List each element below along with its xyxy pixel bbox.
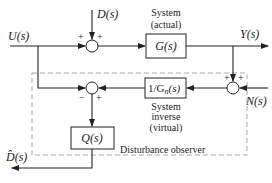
disturbance-label: D(s) bbox=[96, 7, 118, 21]
inverse-caption-line2: inverse bbox=[152, 111, 181, 122]
input-label: U(s) bbox=[8, 29, 29, 43]
noise-label: N(s) bbox=[245, 94, 267, 108]
noise-summing-junction bbox=[227, 82, 239, 94]
input-branch-line bbox=[38, 46, 85, 88]
estimate-label: D̂(s) bbox=[5, 150, 27, 164]
plant-label: G(s) bbox=[155, 39, 176, 53]
inverse-label: 1/Gn(s) bbox=[148, 82, 180, 96]
top-junction-top-sign: + bbox=[97, 31, 103, 42]
top-junction-left-sign: + bbox=[78, 31, 84, 42]
noise-junction-left-sign: + bbox=[224, 72, 230, 83]
inverse-caption-line3: (virtual) bbox=[150, 122, 183, 134]
block-diagram: U(s) D(s) + + System (actual) G(s) Y(s) … bbox=[0, 0, 272, 183]
filter-label: Q(s) bbox=[81, 131, 102, 145]
lower-junction-right-sign: + bbox=[96, 92, 102, 103]
lower-junction-left-sign: − bbox=[79, 92, 85, 103]
plant-caption-line2: (actual) bbox=[151, 19, 182, 31]
noise-junction-right-sign: + bbox=[238, 72, 244, 83]
observer-label: Disturbance observer bbox=[120, 144, 206, 155]
observer-boundary bbox=[32, 73, 247, 155]
plant-caption-line1: System bbox=[151, 7, 181, 18]
output-label: Y(s) bbox=[240, 27, 259, 41]
